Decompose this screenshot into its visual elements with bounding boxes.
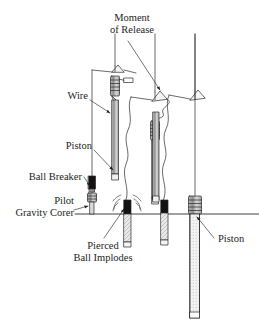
stage-1-ball-breaker xyxy=(89,176,96,192)
diagram-svg xyxy=(0,0,259,336)
label-moment-line2: of Release xyxy=(97,24,167,36)
label-moment-of-release: Moment of Release xyxy=(97,12,167,36)
stage-3-trigger-arm xyxy=(169,90,205,100)
figure-canvas: Moment of Release Wire Piston Ball Break… xyxy=(0,0,259,336)
label-pierced-ball-implodes: Pierced Ball Implodes xyxy=(60,240,146,264)
label-moment-line1: Moment xyxy=(97,12,167,24)
stage-4-piston-head xyxy=(189,196,202,214)
stage-4-core-shoe xyxy=(190,312,200,318)
label-pilot-line1: Pilot xyxy=(2,195,74,207)
imploded-core-barrel xyxy=(124,214,131,242)
label-wire: Wire xyxy=(40,90,88,102)
label-pierced-line1: Pierced xyxy=(60,240,146,252)
label-pilot-line2: Gravity Corer xyxy=(2,207,74,219)
stage-1-pilot-gravity-corer xyxy=(88,193,97,214)
reference-barrel xyxy=(153,112,159,202)
pierced-ball-breaker xyxy=(124,200,131,214)
stage-4-penetration xyxy=(189,34,202,318)
leader-wire xyxy=(90,100,110,113)
label-pierced-line2: Ball Implodes xyxy=(60,252,146,264)
leader-pierced-ball xyxy=(104,209,124,238)
seated-ball-breaker xyxy=(161,200,168,213)
stage-1-suspended xyxy=(88,34,137,214)
seated-core-barrel xyxy=(161,213,168,240)
leader-piston-left xyxy=(94,150,113,170)
leader-pilot-gravity-corer xyxy=(74,206,88,210)
stage-3-trailing-wire xyxy=(162,95,169,214)
stage-2-release xyxy=(124,34,169,214)
label-pilot-gravity-corer: Pilot Gravity Corer xyxy=(2,195,74,219)
stage-4-core-barrel xyxy=(190,214,200,318)
stage-3-free-fall xyxy=(162,34,205,214)
stage-1-core-barrel xyxy=(112,100,119,174)
label-piston-left: Piston xyxy=(40,140,92,152)
stage-2-trailing-wire xyxy=(124,97,131,214)
stage-2-trigger-arm xyxy=(131,91,167,101)
label-ball-breaker: Ball Breaker xyxy=(14,171,82,183)
seated-core-stage-3 xyxy=(161,200,168,245)
stage-1-core-shoe xyxy=(112,174,119,180)
label-piston-right: Piston xyxy=(218,233,258,245)
